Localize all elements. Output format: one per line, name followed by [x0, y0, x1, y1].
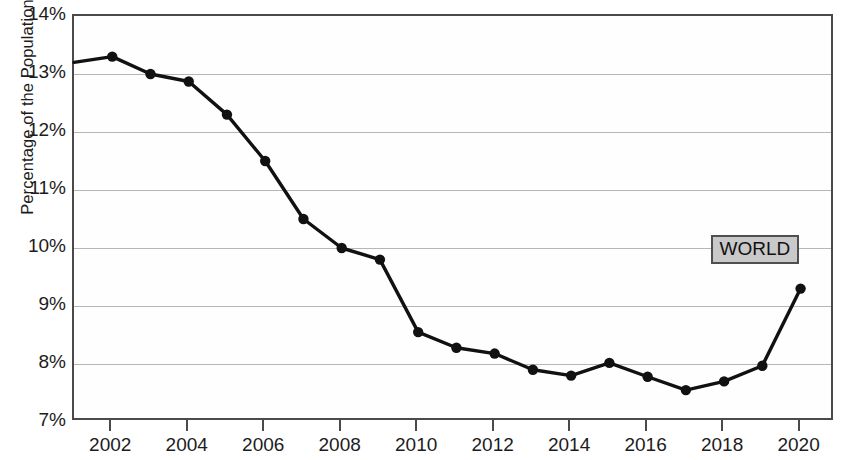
data-point-marker [451, 343, 461, 353]
x-axis-tick-mark [415, 420, 417, 431]
data-point-marker [681, 385, 691, 395]
x-axis-tick-mark [798, 420, 800, 431]
line-chart: Percentage of the Population 14%13%12%11… [0, 0, 842, 460]
x-axis-tick-mark [568, 420, 570, 431]
y-axis-tick-label: 9% [8, 293, 66, 315]
x-axis-tick-labels: 2002200420062008201020122014201620182020 [0, 420, 842, 460]
data-point-marker [336, 243, 346, 253]
x-axis-tick-mark [186, 420, 188, 431]
data-point-marker [184, 76, 194, 86]
x-axis-tick-mark [109, 420, 111, 431]
data-point-marker [413, 327, 423, 337]
y-axis-tick-label: 10% [8, 235, 66, 257]
x-axis-tick-label: 2018 [701, 434, 743, 456]
data-point-marker [298, 214, 308, 224]
data-point-marker [719, 376, 729, 386]
data-point-marker [260, 156, 270, 166]
data-point-marker [757, 361, 767, 371]
y-axis-tick-label: 13% [8, 61, 66, 83]
data-point-marker [375, 254, 385, 264]
data-point-marker [566, 370, 576, 380]
data-point-marker [145, 69, 155, 79]
y-axis-tick-labels: 14%13%12%11%10%9%8%7% [0, 0, 66, 460]
plot-area: WORLD [72, 14, 833, 420]
y-axis-tick-label: 12% [8, 119, 66, 141]
x-axis-tick-mark [492, 420, 494, 431]
x-axis-tick-label: 2014 [548, 434, 590, 456]
x-axis-tick-label: 2006 [242, 434, 284, 456]
x-axis-tick-label: 2020 [777, 434, 819, 456]
y-axis-tick-label: 8% [8, 351, 66, 373]
x-axis-tick-mark [645, 420, 647, 431]
y-axis-tick-label: 14% [8, 3, 66, 25]
data-point-marker [489, 348, 499, 358]
x-axis-tick-mark [339, 420, 341, 431]
data-point-marker [107, 51, 117, 61]
data-point-marker [528, 365, 538, 375]
data-point-marker [222, 109, 232, 119]
data-series [74, 16, 831, 418]
x-axis-tick-mark [262, 420, 264, 431]
series-annotation-world: WORLD [711, 235, 800, 264]
y-axis-tick-label: 11% [8, 177, 66, 199]
x-axis-tick-label: 2008 [319, 434, 361, 456]
x-axis-tick-label: 2002 [89, 434, 131, 456]
x-axis-tick-label: 2004 [166, 434, 208, 456]
data-point-marker [604, 358, 614, 368]
data-point-marker [642, 372, 652, 382]
series-line [74, 57, 801, 391]
x-axis-tick-label: 2016 [624, 434, 666, 456]
x-axis-tick-label: 2012 [472, 434, 514, 456]
x-axis-tick-mark [721, 420, 723, 431]
data-point-marker [795, 283, 805, 293]
x-axis-tick-label: 2010 [395, 434, 437, 456]
